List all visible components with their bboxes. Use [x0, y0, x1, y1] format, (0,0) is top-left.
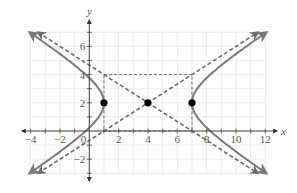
- origin-label: 0: [81, 133, 87, 145]
- vertex-left-point: [100, 99, 107, 106]
- x-tick-label: 12: [260, 133, 271, 145]
- x-axis-label: x: [280, 125, 286, 137]
- x-tick-label: −2: [54, 133, 66, 145]
- x-tick-label: 6: [175, 133, 181, 145]
- x-tick-label: 2: [116, 133, 122, 145]
- hyperbola-plot: −4−224681012−22460 x y: [0, 0, 297, 193]
- center-point: [144, 99, 151, 106]
- vertex-right-point: [188, 99, 195, 106]
- y-tick-label: 6: [80, 40, 86, 52]
- y-axis-label: y: [86, 5, 92, 17]
- x-tick-label: 10: [231, 133, 243, 145]
- x-tick-label: −4: [25, 133, 37, 145]
- x-tick-label: 8: [204, 133, 210, 145]
- y-tick-label: 2: [80, 97, 86, 109]
- y-tick-label: −2: [74, 153, 86, 165]
- y-tick-label: 4: [80, 69, 86, 81]
- x-tick-label: 4: [145, 133, 151, 145]
